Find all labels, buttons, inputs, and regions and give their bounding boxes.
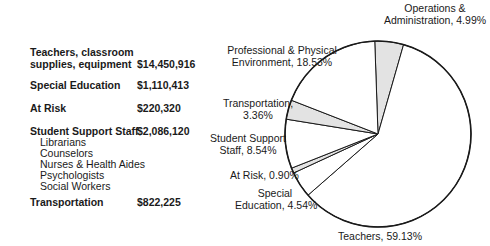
label-line: Operations & (380, 2, 490, 14)
label-student-support: Student Support Staff, 8.54% (208, 132, 288, 156)
label-line: Student Support (208, 132, 288, 144)
label-line: Special (235, 187, 315, 199)
label-line: Environment, 18.53% (222, 56, 342, 68)
label-teachers: Teachers, 59.13% (320, 230, 440, 242)
label-transportation: Transportation, 3.36% (218, 97, 298, 121)
label-at-risk: At Risk, 0.90% (230, 169, 290, 181)
label-line: Professional & Physical (222, 44, 342, 56)
label-operations: Operations & Administration, 4.99% (380, 2, 490, 26)
label-line: 3.36% (218, 109, 298, 121)
label-line: Transportation, (218, 97, 298, 109)
pie-chart: Operations & Administration, 4.99% Profe… (0, 0, 490, 246)
label-special-education: Special Education, 4.54% (235, 187, 315, 211)
label-line: Education, 4.54% (235, 199, 315, 211)
label-line: Staff, 8.54% (208, 144, 288, 156)
label-line: Administration, 4.99% (380, 14, 490, 26)
label-professional: Professional & Physical Environment, 18.… (222, 44, 342, 68)
